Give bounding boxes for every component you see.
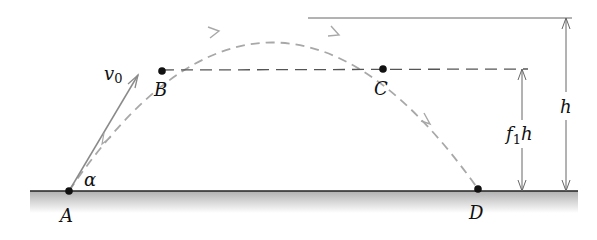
point-a xyxy=(65,187,73,195)
trajectory-arrow-icon xyxy=(208,27,219,38)
point-b xyxy=(158,67,166,75)
velocity-arrowhead-icon xyxy=(128,75,138,88)
label-v0-sub: 0 xyxy=(114,71,122,86)
label-v0-main: v xyxy=(104,63,114,84)
label-f1h: f1h xyxy=(504,123,533,147)
label-d: D xyxy=(468,202,484,223)
trajectory-arrow-icon xyxy=(421,113,430,124)
label-f1h-sub: 1 xyxy=(513,132,521,147)
projectile-diagram: A B C D v0 α f1h h xyxy=(0,0,597,240)
label-f1h-h: h xyxy=(521,123,533,144)
label-h: h xyxy=(560,96,572,117)
label-c: C xyxy=(374,78,388,99)
level-line-bc xyxy=(162,69,528,70)
label-v0: v0 xyxy=(104,63,122,86)
label-b: B xyxy=(153,79,167,100)
label-alpha: α xyxy=(84,169,96,190)
point-c xyxy=(379,65,387,73)
point-d xyxy=(474,185,482,193)
trajectory-curve xyxy=(69,42,478,191)
ground-fill xyxy=(30,191,578,213)
label-a: A xyxy=(58,205,73,226)
trajectory-arrow-icon xyxy=(328,26,339,36)
